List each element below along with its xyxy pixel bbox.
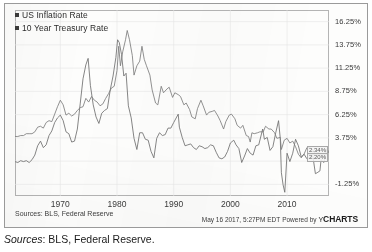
plot-canvas[interactable] xyxy=(15,10,329,196)
y-tick-label: 11.25% xyxy=(335,63,360,72)
y-tick-label: 8.75% xyxy=(335,86,357,95)
chart-legend: US Inflation Rate 10 Year Treasury Rate xyxy=(15,9,108,35)
chart-source-note: Sources: BLS, Federal Reserve xyxy=(15,210,113,217)
legend-swatch-inflation xyxy=(15,13,19,17)
series-lines xyxy=(15,30,328,192)
x-tick-label: 2010 xyxy=(278,199,297,209)
x-tick-label: 2000 xyxy=(221,199,240,209)
callout-inflation-value: 2.20% xyxy=(307,153,328,162)
x-tick-label: 1990 xyxy=(164,199,183,209)
legend-swatch-treasury xyxy=(15,26,19,30)
attribution-timestamp: May 16 2017, 5:27PM EDT xyxy=(202,216,280,223)
ycharts-logo-charts: CHARTS xyxy=(323,214,358,224)
figure-caption: Sources: BLS, Federal Reserve. xyxy=(4,233,155,245)
y-tick-label: 13.75% xyxy=(335,40,361,49)
x-tick-label: 1970 xyxy=(51,199,70,209)
attribution-powered-by: Powered by xyxy=(282,216,316,223)
caption-sources-word: Sources xyxy=(4,233,43,245)
ycharts-logo[interactable]: YCHARTS xyxy=(319,214,359,224)
y-tick-label: 16.25% xyxy=(335,17,361,26)
x-tick-label: 1980 xyxy=(108,199,127,209)
legend-item-treasury[interactable]: 10 Year Treasury Rate xyxy=(15,22,108,34)
y-tick-label: 3.75% xyxy=(335,133,357,142)
y-tick-label: 6.25% xyxy=(335,110,357,119)
chart-attribution: May 16 2017, 5:27PM EDT Powered by YCHAR… xyxy=(202,214,358,224)
legend-label-inflation: US Inflation Rate xyxy=(22,10,88,20)
legend-item-inflation[interactable]: US Inflation Rate xyxy=(15,9,108,21)
y-tick-label: -1.25% xyxy=(335,179,359,188)
legend-label-treasury: 10 Year Treasury Rate xyxy=(22,23,108,33)
ycharts-chart-card: US Inflation Rate 10 Year Treasury Rate … xyxy=(4,3,368,228)
caption-sources-rest: : BLS, Federal Reserve. xyxy=(43,233,155,245)
chart-screenshot: US Inflation Rate 10 Year Treasury Rate … xyxy=(0,0,372,252)
